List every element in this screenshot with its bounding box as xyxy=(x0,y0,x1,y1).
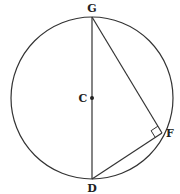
chord-DF xyxy=(92,133,162,179)
label-G: G xyxy=(87,2,96,15)
label-D: D xyxy=(87,182,97,194)
label-F: F xyxy=(166,127,174,140)
center-point-C xyxy=(90,96,94,100)
circle-geometry-diagram: G C D F xyxy=(0,0,180,194)
chord-GF xyxy=(92,17,162,133)
label-C: C xyxy=(79,92,88,105)
